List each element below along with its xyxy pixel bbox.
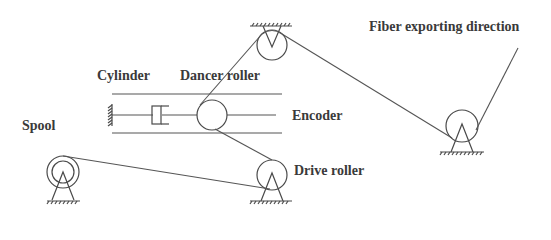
fiber-path (63, 31, 518, 190)
label-drive-roller: Drive roller (294, 164, 364, 178)
label-cylinder: Cylinder (97, 69, 150, 83)
label-dancer-roller: Dancer roller (180, 69, 260, 83)
fiber-exit-output (476, 48, 518, 130)
fiber-spool-to-drive (63, 156, 270, 189)
spool (47, 156, 80, 204)
ceiling-v-support (263, 26, 281, 47)
cylinder-body (152, 106, 161, 124)
fiber-drive-to-dancer (215, 129, 272, 160)
dancer-roller (197, 100, 227, 130)
label-fiber-exporting-direction: Fiber exporting direction (369, 20, 519, 34)
label-spool: Spool (22, 119, 55, 133)
drive-roller (250, 160, 292, 204)
drive-roller-circle (257, 160, 287, 190)
exit-guide-roller (440, 110, 484, 155)
top-guide-roller (250, 23, 292, 60)
label-encoder: Encoder (292, 109, 343, 123)
drive-roller-support (261, 173, 283, 201)
exit-roller-support (451, 124, 473, 152)
wall-mount (108, 104, 112, 126)
